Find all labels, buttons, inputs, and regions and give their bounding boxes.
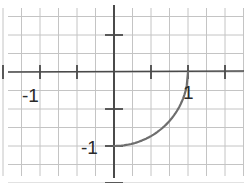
x-tick-label-pos1: 1	[183, 82, 194, 103]
axes	[8, 5, 244, 178]
grid-lines	[3, 8, 244, 183]
x-axis	[8, 71, 244, 72]
y-tick-label-neg1: -1	[81, 137, 98, 158]
x-tick-label-neg1: -1	[22, 85, 39, 106]
function-graph: -1 1 -1	[0, 0, 244, 183]
